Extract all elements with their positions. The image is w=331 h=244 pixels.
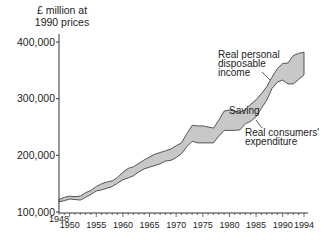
y-axis-label-line1: £ million at	[37, 4, 87, 16]
x-tick-label: 1994	[294, 220, 314, 230]
x-tick-label: 1955	[86, 220, 106, 230]
y-tick-label: 200,000	[17, 149, 55, 161]
income-pointer	[262, 72, 270, 80]
x-tick-label: 1960	[113, 220, 133, 230]
x-tick-label: 1980	[219, 220, 239, 230]
chart-svg: 100,000200,000300,000400,000194819501955…	[0, 0, 331, 244]
saving-chart: 100,000200,000300,000400,000194819501955…	[0, 0, 331, 244]
x-tick-label: 1970	[166, 220, 186, 230]
x-tick-label: 1975	[193, 220, 213, 230]
y-tick-label: 300,000	[17, 92, 55, 104]
x-tick-label: 1950	[60, 220, 80, 230]
x-tick-label: 1985	[246, 220, 266, 230]
x-tick-label: 1990	[273, 220, 293, 230]
income-label-line3: income	[218, 67, 251, 78]
y-tick-label: 400,000	[17, 36, 55, 48]
expenditure-label-line2: expenditure	[245, 136, 298, 147]
saving-label: Saving	[229, 105, 260, 116]
y-axis-label-line2: 1990 prices	[35, 16, 89, 28]
x-tick-label: 1965	[140, 220, 160, 230]
